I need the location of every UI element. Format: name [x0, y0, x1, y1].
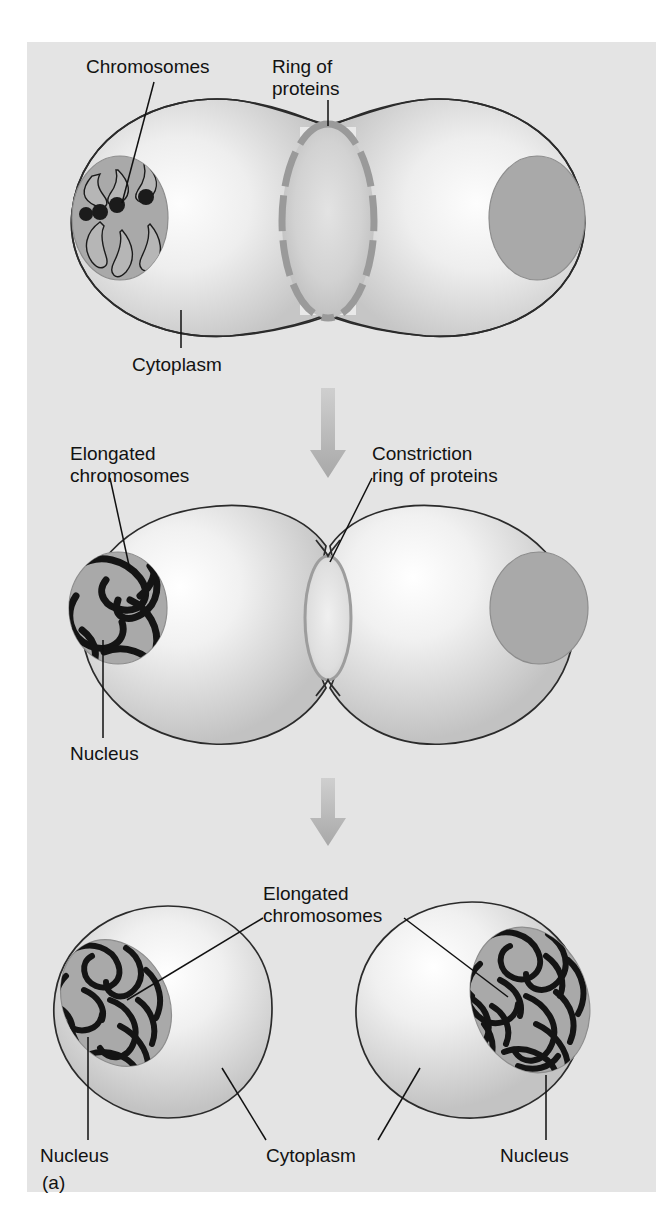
stage2-label-constriction-ring-line1: Constriction [372, 443, 472, 464]
centromere-dot [92, 204, 108, 220]
panel-letter: (a) [42, 1172, 65, 1193]
cytokinesis-figure: Chromosomes Ring of proteins Cytoplasm [0, 0, 656, 1220]
stage1-label-cytoplasm: Cytoplasm [132, 354, 222, 375]
stage3-label-nucleus-left: Nucleus [40, 1145, 109, 1166]
stage2-constriction-ring [305, 556, 351, 680]
centromere-dot [79, 207, 93, 221]
centromere-dot [138, 189, 154, 205]
stage1-label-ring-of-proteins-line2: proteins [272, 78, 340, 99]
stage2-label-constriction-ring-line2: ring of proteins [372, 465, 498, 486]
stage3-label-elongated-chromosomes-line2: chromosomes [263, 905, 382, 926]
cytokinesis-diagram-canvas: Chromosomes Ring of proteins Cytoplasm [0, 0, 656, 1220]
stage2-label-elongated-chromosomes-line2: chromosomes [70, 465, 189, 486]
stage2-label-elongated-chromosomes-line1: Elongated [70, 443, 156, 464]
stage3-label-cytoplasm: Cytoplasm [266, 1145, 356, 1166]
stage3-label-nucleus-right: Nucleus [500, 1145, 569, 1166]
stage3-label-elongated-chromosomes-line1: Elongated [263, 883, 349, 904]
stage2-nucleus-right [490, 552, 588, 664]
stage1-label-chromosomes: Chromosomes [86, 56, 210, 77]
stage1-label-ring-of-proteins-line1: Ring of [272, 56, 333, 77]
stage2-label-nucleus: Nucleus [70, 743, 139, 764]
stage1-nucleus-right [489, 156, 585, 280]
